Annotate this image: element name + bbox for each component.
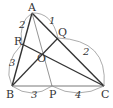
label-p: P <box>49 88 57 101</box>
length-bp: 3 <box>31 89 37 100</box>
length-qc: 2 <box>82 46 89 57</box>
label-q: Q <box>58 26 67 39</box>
label-o: O <box>37 52 46 65</box>
length-aq: 1 <box>49 15 55 26</box>
length-pc: 4 <box>74 89 81 100</box>
label-r: R <box>14 35 23 48</box>
label-a: A <box>27 1 37 14</box>
length-rb: 3 <box>9 57 15 68</box>
label-b: B <box>6 88 14 101</box>
cevian-cr <box>22 44 104 86</box>
length-ar: 2 <box>18 19 25 30</box>
triangle-diagram: A B C P Q R O 2 3 1 2 3 4 <box>0 0 113 108</box>
label-c: C <box>101 88 109 101</box>
